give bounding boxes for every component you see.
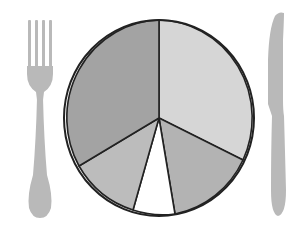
pie-chart [64, 20, 254, 216]
fork-icon [27, 20, 53, 218]
knife-icon [268, 12, 286, 216]
plate-pie-illustration [0, 0, 299, 233]
